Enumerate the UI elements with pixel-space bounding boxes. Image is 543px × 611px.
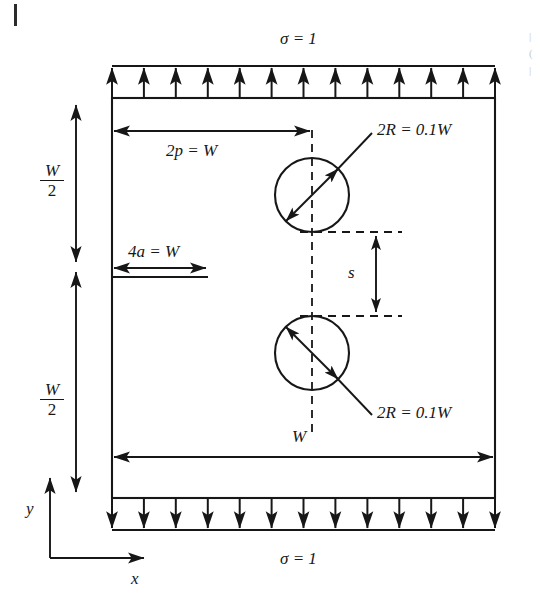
crack-label: 4a = W [128, 243, 179, 260]
bottom-traction-arrows [112, 498, 495, 528]
half-height-top-denominator: 2 [40, 182, 64, 199]
top-traction-band [112, 66, 495, 98]
axis-x-label: x [131, 570, 139, 587]
spacing-label: s [348, 264, 355, 281]
top-traction-arrows [112, 68, 495, 98]
coordinate-axes [50, 478, 144, 558]
half-height-top-label: W 2 [40, 162, 64, 200]
hole-bottom-label: 2R = 0.1W [377, 404, 451, 421]
stress-bottom-label: σ = 1 [280, 550, 317, 567]
hole-top [275, 133, 372, 232]
width-label: W [292, 428, 306, 445]
hole-bottom [275, 316, 372, 415]
stress-top-label: σ = 1 [280, 30, 317, 47]
figure-root: | ( | [0, 0, 543, 611]
axis-y-label: y [26, 500, 34, 517]
half-height-top-numerator: W [40, 162, 64, 179]
hole-top-label: 2R = 0.1W [377, 121, 451, 138]
diagram-canvas [0, 0, 543, 611]
half-height-bottom-label: W 2 [40, 381, 64, 419]
half-height-bottom-denominator: 2 [40, 401, 64, 418]
crack-dimension [112, 268, 208, 277]
half-height-bottom-numerator: W [40, 381, 64, 398]
bottom-traction-band [112, 498, 495, 530]
pitch-label: 2p = W [166, 142, 217, 159]
